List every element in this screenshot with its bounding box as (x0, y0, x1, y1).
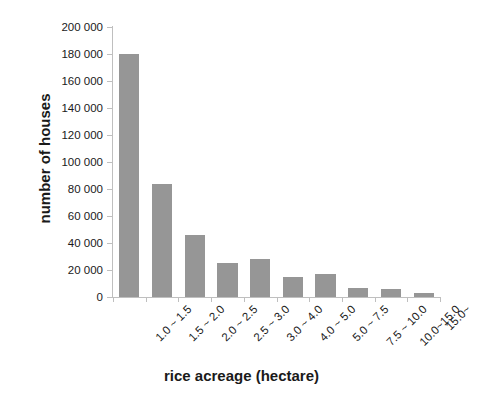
x-axis-tick-mark (244, 298, 245, 302)
y-axis-tick-mark (107, 297, 112, 298)
x-axis-title: rice acreage (hectare) (0, 367, 483, 384)
bar (119, 54, 139, 297)
bar (283, 277, 303, 297)
y-axis-tick-mark (107, 81, 112, 82)
x-axis-tick-mark (375, 298, 376, 302)
bar (315, 274, 335, 297)
y-axis-tick-label: 40 000 (17, 237, 103, 249)
y-axis-tick-mark (107, 270, 112, 271)
bar (381, 289, 401, 297)
y-axis-tick-mark (107, 189, 112, 190)
y-axis-tick-label: 20 000 (17, 264, 103, 276)
bar (185, 235, 205, 297)
y-axis-tick-mark (107, 135, 112, 136)
y-axis-tick-label: 100 000 (17, 156, 103, 168)
x-axis-tick-label: 1.5 ~ 2.0 (186, 303, 226, 343)
plot-area (113, 27, 440, 297)
x-axis-tick-mark (342, 298, 343, 302)
y-axis-tick-label: 0 (17, 291, 103, 303)
y-axis-tick-mark (107, 216, 112, 217)
bar (414, 293, 434, 297)
x-axis-tick-mark (440, 298, 441, 302)
bar (250, 259, 270, 297)
bar (152, 184, 172, 297)
x-axis-tick-mark (113, 298, 114, 302)
bar (217, 263, 237, 297)
x-axis-tick-mark (211, 298, 212, 302)
x-axis-tick-mark (146, 298, 147, 302)
x-axis-tick-mark (178, 298, 179, 302)
bar-chart: number of houses 020 00040 00060 00080 0… (0, 0, 483, 405)
x-axis-tick-mark (407, 298, 408, 302)
y-axis-tick-mark (107, 27, 112, 28)
y-axis-tick-mark (107, 108, 112, 109)
bar (348, 288, 368, 297)
y-axis-tick-mark (107, 162, 112, 163)
y-axis-tick-label: 80 000 (17, 183, 103, 195)
y-axis-tick-mark (107, 243, 112, 244)
x-axis-tick-mark (277, 298, 278, 302)
y-axis-tick-label: 160 000 (17, 75, 103, 87)
y-axis-tick-mark (107, 54, 112, 55)
y-axis-tick-label: 200 000 (17, 21, 103, 33)
y-axis-tick-label: 60 000 (17, 210, 103, 222)
y-axis-tick-label: 140 000 (17, 102, 103, 114)
y-axis-tick-label: 120 000 (17, 129, 103, 141)
x-axis-tick-mark (309, 298, 310, 302)
y-axis-tick-label: 180 000 (17, 48, 103, 60)
